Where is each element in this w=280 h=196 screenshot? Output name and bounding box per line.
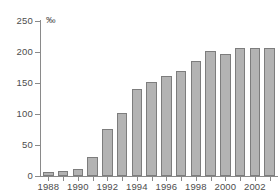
x-tick-label: 1988: [37, 182, 59, 192]
x-tick-label: 2002: [244, 182, 266, 192]
y-tick-mark: [35, 114, 40, 115]
bar-1994: [132, 89, 142, 176]
bar-1991: [87, 157, 97, 176]
bar-2000: [220, 54, 230, 176]
y-tick-label: 200: [17, 47, 33, 56]
y-tick-label: 150: [17, 78, 33, 87]
x-tick-label: 1994: [126, 182, 148, 192]
bar-2001: [235, 48, 245, 176]
bar-1999: [205, 51, 215, 176]
bar-1997: [176, 71, 186, 176]
y-tick-mark: [35, 176, 40, 177]
y-tick-mark: [35, 52, 40, 53]
plot-area: [41, 21, 277, 176]
y-tick-mark: [35, 145, 40, 146]
bar-1992: [102, 129, 112, 176]
bar-2003: [264, 48, 274, 176]
x-tick-mark: [270, 177, 271, 181]
x-tick-mark: [240, 177, 241, 181]
x-tick-mark: [211, 177, 212, 181]
y-tick-label: 100: [17, 109, 33, 118]
x-tick-mark: [93, 177, 94, 181]
y-tick-mark: [35, 83, 40, 84]
y-tick-label: 250: [17, 16, 33, 25]
x-axis-line: [40, 176, 278, 177]
bar-1988: [43, 172, 53, 176]
x-tick-label: 1998: [185, 182, 207, 192]
bar-1995: [146, 82, 156, 176]
bar-1990: [73, 169, 83, 176]
y-tick-label: 0: [28, 171, 33, 180]
x-tick-mark: [152, 177, 153, 181]
bar-2002: [250, 48, 260, 176]
x-tick-label: 1996: [155, 182, 177, 192]
bar-chart: ‰ 050100150200250 1988199019921994199619…: [0, 0, 280, 196]
x-tick-label: 1990: [67, 182, 89, 192]
bar-1998: [191, 61, 201, 176]
x-tick-label: 1992: [96, 182, 118, 192]
y-tick-mark: [35, 21, 40, 22]
x-tick-label: 2000: [214, 182, 236, 192]
bar-1996: [161, 76, 171, 176]
bar-1993: [117, 113, 127, 176]
x-tick-mark: [63, 177, 64, 181]
y-tick-label: 50: [22, 140, 33, 149]
x-tick-mark: [181, 177, 182, 181]
bar-1989: [58, 171, 68, 176]
x-tick-mark: [122, 177, 123, 181]
